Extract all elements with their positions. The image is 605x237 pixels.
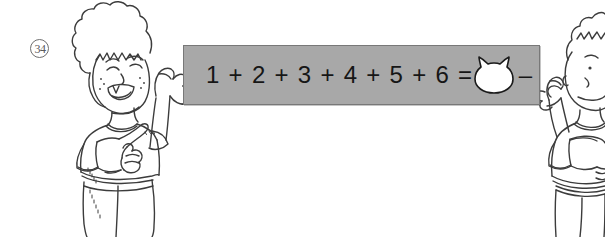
worksheet-page: 34 1 + 2 + 3 + 4 + 5 + 6 = 22 – <box>0 0 605 237</box>
answer-placeholder[interactable] <box>472 55 516 95</box>
right-child-figure <box>536 13 605 237</box>
illustration-canvas <box>0 0 605 237</box>
equation-banner: 1 + 2 + 3 + 4 + 5 + 6 = 22 – <box>183 45 540 105</box>
exercise-number: 34 <box>28 38 52 60</box>
left-child-figure <box>72 2 192 237</box>
cat-head-icon <box>472 55 516 95</box>
exercise-number-label: 34 <box>35 42 46 57</box>
